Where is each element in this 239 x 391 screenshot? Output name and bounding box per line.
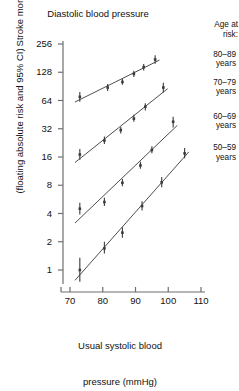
y-tick-label: 2: [18, 236, 52, 247]
x-tick-label: 90: [124, 295, 148, 306]
legend-item-80-89 years: 80–89years: [196, 50, 236, 69]
series-60-69 years: [79, 117, 175, 215]
y-tick-label: 128: [18, 66, 52, 77]
x-tick-label: 100: [156, 295, 180, 306]
y-tick-label: 256: [18, 38, 52, 49]
legend-title: Age at risk:: [196, 20, 238, 39]
legend-title-line2: risk:: [196, 30, 238, 40]
x-tick-label: 80: [91, 295, 115, 306]
x-axis-label-line1: Usual systolic blood: [40, 340, 200, 352]
legend-item-range: 50–59: [196, 143, 236, 153]
legend-item-units: years: [196, 153, 236, 163]
x-axis-label-line2: pressure (mmHg): [40, 376, 200, 388]
y-tick-label: 8: [18, 179, 52, 190]
legend-item-units: years: [196, 121, 236, 131]
y-tick-label: 32: [18, 123, 52, 134]
legend-item-70-79 years: 70–79years: [196, 78, 236, 97]
x-axis-label: Usual systolic blood pressure (mmHg): [40, 316, 200, 391]
legend-item-range: 60–69: [196, 112, 236, 122]
x-tick-label: 110: [189, 295, 213, 306]
x-tick-label: 70: [58, 295, 82, 306]
legend: Age at risk: 80–89years70–79years60–69ye…: [196, 20, 238, 46]
y-tick-label: 64: [18, 95, 52, 106]
legend-item-60-69 years: 60–69years: [196, 112, 236, 131]
legend-item-units: years: [196, 87, 236, 97]
legend-title-line1: Age at: [196, 20, 238, 30]
legend-item-units: years: [196, 59, 236, 69]
y-tick-label: 4: [18, 208, 52, 219]
legend-item-50-59 years: 50–59years: [196, 143, 236, 162]
legend-item-range: 80–89: [196, 50, 236, 60]
y-tick-label: 1: [18, 264, 52, 275]
legend-item-range: 70–79: [196, 78, 236, 88]
y-tick-label: 16: [18, 151, 52, 162]
